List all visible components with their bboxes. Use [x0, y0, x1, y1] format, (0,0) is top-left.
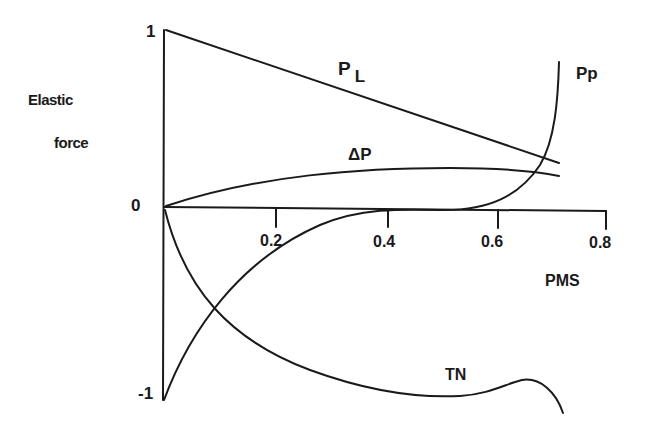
series-label-pl-main: P — [338, 58, 351, 79]
series-label-pl: PL — [338, 58, 365, 80]
series-pl-line — [166, 30, 559, 163]
y-tick-label-neg1: -1 — [138, 384, 153, 404]
y-tick-label-0: 0 — [131, 196, 140, 216]
x-tick-label-0.4: 0.4 — [373, 233, 395, 251]
series-label-pl-sub: L — [355, 67, 365, 86]
series-label-pp: Pp — [576, 64, 598, 84]
x-tick-label-0.6: 0.6 — [481, 233, 503, 251]
y-axis — [163, 30, 164, 400]
y-axis-label-line2: force — [54, 134, 88, 151]
chart-canvas — [0, 0, 648, 427]
x-tick-label-0.2: 0.2 — [260, 232, 282, 250]
y-tick-label-1: 1 — [146, 22, 155, 42]
series-label-tn: TN — [445, 366, 466, 384]
series-tn-line — [165, 210, 563, 413]
y-axis-label-line1: Elastic — [28, 91, 73, 108]
series-label-deltap: ΔP — [348, 145, 372, 165]
x-tick-label-0.8: 0.8 — [589, 234, 611, 252]
series-pp-line — [164, 62, 559, 400]
x-axis-label: PMS — [545, 272, 580, 290]
